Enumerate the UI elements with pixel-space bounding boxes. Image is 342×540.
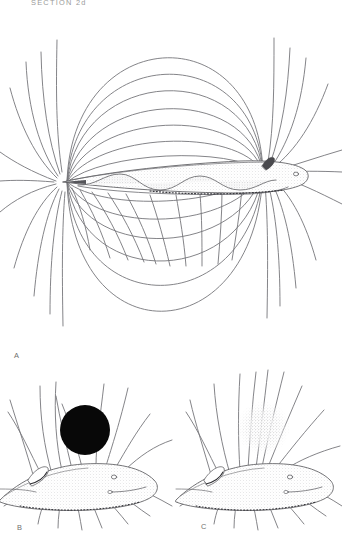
panel-label-c: C [201,522,207,531]
panel-label-a: A [14,351,19,360]
panel-b-fish [0,464,157,511]
electric-field-figure [0,0,342,540]
figure-root: SECTION 2d [0,0,342,540]
fish-nare-panel-b [108,490,112,493]
fish-eye-panel-a [294,172,299,176]
running-head: SECTION 2d [31,0,87,7]
fish-nare-panel-c [284,490,288,493]
fish-eye-panel-b [111,475,116,479]
panel-c-fish [176,464,333,511]
fish-eye-panel-c [287,475,292,479]
insulating-object-disc [60,405,110,455]
panel-a-fish [63,157,308,194]
panel-label-b: B [17,523,22,532]
conducting-object-disc [237,402,289,454]
